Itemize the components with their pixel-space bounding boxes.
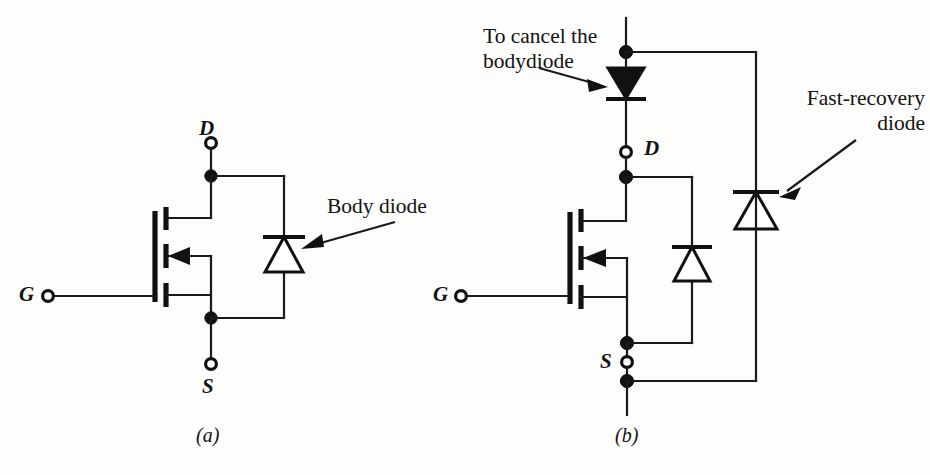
circuit-diagram-svg — [0, 0, 930, 475]
drain-label-b: D — [644, 136, 659, 161]
fast-recovery-callout-line2-b: diode — [650, 111, 925, 136]
gate-terminal-a[interactable] — [43, 291, 54, 302]
gate-label-b: G — [433, 282, 448, 307]
gate-label-a: G — [19, 282, 34, 307]
body-diode-triangle-a — [265, 237, 303, 272]
body-diode-triangle-b — [674, 247, 710, 281]
gate-terminal-b[interactable] — [456, 291, 467, 302]
body-diode-callout-a: Body diode — [327, 194, 427, 219]
source-label-a: S — [202, 374, 214, 399]
cancel-bodydiode-callout-line2-b: bodydiode — [483, 49, 574, 74]
mosfet-body-arrow-b — [583, 249, 606, 267]
subfigure-caption-a: (a) — [196, 424, 219, 448]
cancel-callout-arrowhead-b — [587, 79, 608, 92]
drain-label-a: D — [199, 116, 214, 141]
mosfet-body-arrow-a — [168, 247, 190, 265]
source-terminal-b[interactable] — [622, 357, 633, 368]
subfigure-caption-b: (b) — [615, 424, 638, 448]
fast-recovery-callout-line1-b: Fast-recovery — [650, 86, 925, 111]
circuit-a-group — [43, 138, 395, 370]
drain-terminal-b[interactable] — [621, 147, 632, 158]
source-label-b: S — [600, 349, 612, 374]
source-terminal-a[interactable] — [206, 359, 217, 370]
figure-canvas: D S G Body diode D S G To cancel the bod… — [0, 0, 930, 475]
fast-recovery-callout-line-b — [787, 140, 856, 191]
cancel-diode-triangle-b — [608, 68, 644, 98]
cancel-bodydiode-callout-line1-b: To cancel the — [483, 24, 597, 49]
circuit-b-group — [456, 18, 856, 415]
